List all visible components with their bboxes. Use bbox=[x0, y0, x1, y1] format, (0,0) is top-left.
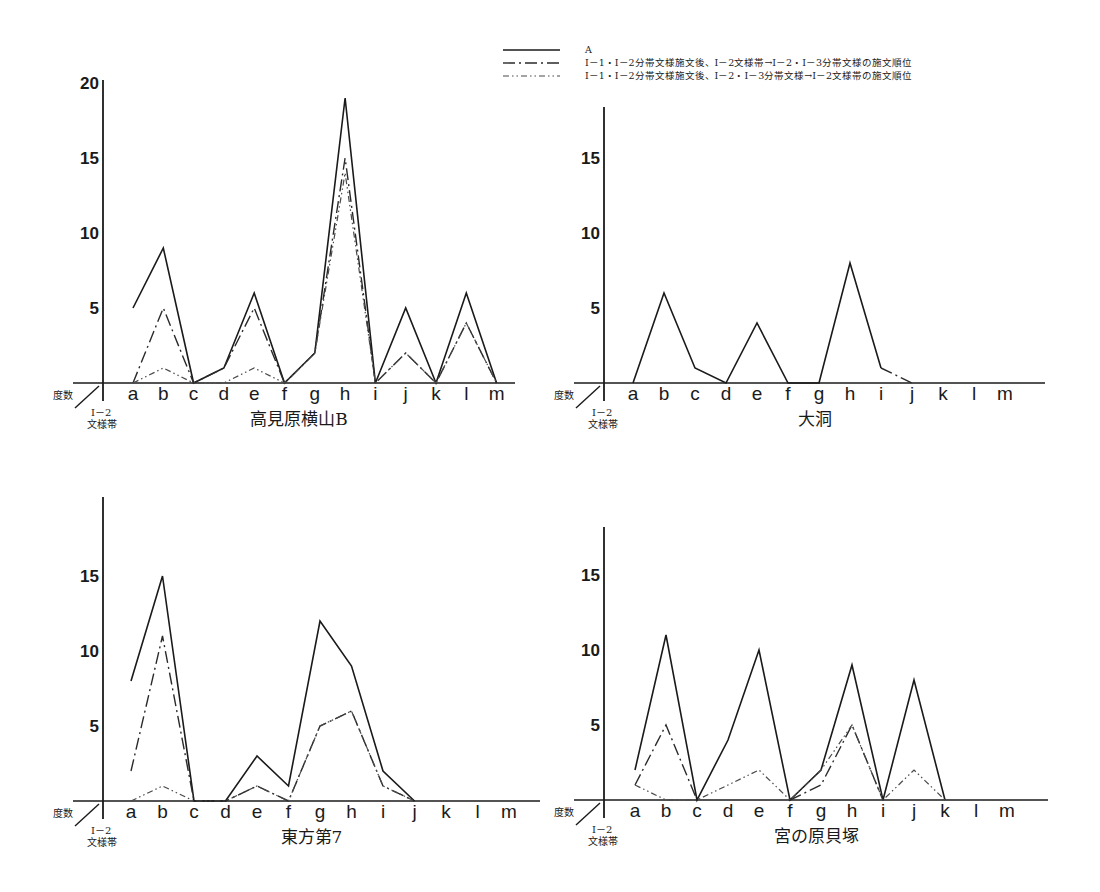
x-axis-label-line2: 文様帯 bbox=[588, 418, 618, 430]
x-category-label: h bbox=[845, 383, 856, 404]
y-axis-label: 度数 bbox=[554, 806, 574, 818]
figure: A Ⅰ－1・Ⅰ－2分帯文様施文後、Ⅰ－2文様帯→Ⅰ－2・Ⅰ－3分帯文様の施文順位… bbox=[0, 0, 1100, 892]
y-tick-label: 5 bbox=[90, 717, 99, 736]
x-axis-label-line2: 文様帯 bbox=[87, 836, 117, 848]
x-axis-label-line1: Ⅰ－2 bbox=[91, 825, 111, 836]
x-axis-label-line1: Ⅰ－2 bbox=[91, 407, 111, 418]
y-tick-label: 10 bbox=[80, 224, 99, 243]
series-line-dash-dot bbox=[635, 725, 697, 800]
x-category-label: m bbox=[999, 800, 1015, 821]
x-category-label: l bbox=[974, 800, 978, 821]
x-category-label: h bbox=[847, 800, 858, 821]
x-category-label: a bbox=[126, 801, 137, 822]
x-axis-label-line2: 文様帯 bbox=[588, 835, 618, 847]
x-axis-label-line2: 文様帯 bbox=[87, 418, 117, 430]
x-category-label: a bbox=[630, 800, 641, 821]
x-category-label: i bbox=[381, 801, 385, 822]
x-category-label: g bbox=[816, 800, 827, 821]
legend-label: Ⅰ－1・Ⅰ－2分帯文様施文後、Ⅰ－2文様帯→Ⅰ－2・Ⅰ－3分帯文様の施文順位 bbox=[585, 57, 912, 68]
corner-slash bbox=[75, 804, 99, 826]
x-category-label: g bbox=[310, 383, 321, 404]
x-category-label: g bbox=[814, 383, 825, 404]
x-category-label: i bbox=[373, 383, 377, 404]
x-category-label: i bbox=[879, 383, 883, 404]
x-category-label: e bbox=[252, 801, 263, 822]
y-tick-label: 10 bbox=[80, 642, 99, 661]
y-axis-label: 度数 bbox=[53, 807, 73, 819]
chart-title: 東方第7 bbox=[281, 827, 343, 847]
chart-higashikata-7: 51015abcdefghijklm度数Ⅰ－2文様帯東方第7 bbox=[53, 497, 540, 848]
x-category-label: j bbox=[909, 383, 914, 404]
x-category-label: g bbox=[315, 801, 326, 822]
x-category-label: k bbox=[431, 383, 441, 404]
chart-miyanohara-shell-mound: 51015abcdefghijklm度数Ⅰ－2文様帯宮の原貝塚 bbox=[554, 527, 1048, 847]
series-line-dash-dot bbox=[131, 636, 415, 801]
y-axis-label: 度数 bbox=[554, 389, 574, 401]
x-category-label: l bbox=[475, 801, 479, 822]
x-category-label: b bbox=[661, 800, 672, 821]
x-category-label: d bbox=[723, 800, 734, 821]
x-category-label: d bbox=[220, 801, 231, 822]
chart-title: 宮の原貝塚 bbox=[774, 826, 859, 846]
x-category-label: j bbox=[911, 800, 916, 821]
x-category-label: b bbox=[659, 383, 670, 404]
y-axis-label: 度数 bbox=[53, 389, 73, 401]
x-category-label: k bbox=[940, 800, 950, 821]
x-category-label: m bbox=[501, 801, 517, 822]
chart-title: 高見原横山B bbox=[250, 409, 348, 429]
x-category-label: l bbox=[464, 383, 468, 404]
x-category-label: b bbox=[157, 801, 168, 822]
x-category-label: k bbox=[938, 383, 948, 404]
series-line-solid bbox=[633, 263, 881, 383]
x-category-label: j bbox=[411, 801, 416, 822]
y-tick-label: 5 bbox=[591, 716, 600, 735]
legend-item-solid: A bbox=[503, 44, 592, 55]
chart-title: 大洞 bbox=[798, 409, 832, 429]
legend-item-dash-dot-dot: Ⅰ－1・Ⅰ－2分帯文様施文後、Ⅰ－2・Ⅰ－3分帯文様→Ⅰ－2文様帯の施文順位 bbox=[503, 70, 912, 81]
series-line-dash-dot-dot bbox=[131, 711, 415, 801]
x-category-label: j bbox=[403, 383, 408, 404]
y-tick-label: 15 bbox=[581, 566, 600, 585]
legend-label: A bbox=[584, 44, 592, 55]
x-category-label: a bbox=[628, 383, 639, 404]
y-tick-label: 5 bbox=[591, 299, 600, 318]
corner-slash bbox=[576, 386, 600, 408]
x-category-label: e bbox=[249, 383, 260, 404]
x-category-label: f bbox=[282, 383, 288, 404]
legend-item-dash-dot: Ⅰ－1・Ⅰ－2分帯文様施文後、Ⅰ－2文様帯→Ⅰ－2・Ⅰ－3分帯文様の施文順位 bbox=[503, 57, 912, 68]
series-line-dash-dot bbox=[133, 158, 497, 383]
x-category-label: f bbox=[785, 383, 791, 404]
x-category-label: d bbox=[721, 383, 732, 404]
x-axis-label-line1: Ⅰ－2 bbox=[592, 824, 612, 835]
x-category-label: b bbox=[158, 383, 169, 404]
y-tick-label: 5 bbox=[90, 299, 99, 318]
y-tick-label: 15 bbox=[80, 149, 99, 168]
x-category-label: h bbox=[340, 383, 351, 404]
corner-slash bbox=[576, 803, 600, 825]
x-category-label: l bbox=[972, 383, 976, 404]
x-category-label: d bbox=[219, 383, 230, 404]
x-category-label: h bbox=[346, 801, 357, 822]
series-line-dash-dot-dot bbox=[635, 725, 945, 800]
x-category-label: f bbox=[286, 801, 292, 822]
x-category-label: c bbox=[692, 800, 702, 821]
series-line-solid bbox=[131, 576, 415, 801]
x-category-label: c bbox=[690, 383, 700, 404]
x-category-label: i bbox=[881, 800, 885, 821]
x-category-label: f bbox=[787, 800, 793, 821]
series-line-solid bbox=[133, 98, 497, 383]
series-line-dash-dot bbox=[881, 368, 912, 383]
chart-takamihara-yokoyama-b: 5101520abcdefghijklm度数Ⅰ－2文様帯高見原横山B bbox=[53, 74, 515, 430]
x-category-label: e bbox=[752, 383, 763, 404]
y-tick-label: 10 bbox=[581, 224, 600, 243]
x-category-label: a bbox=[128, 383, 139, 404]
x-axis-label-line1: Ⅰ－2 bbox=[592, 407, 612, 418]
y-tick-label: 15 bbox=[80, 567, 99, 586]
series-line-solid bbox=[635, 635, 945, 800]
legend: A Ⅰ－1・Ⅰ－2分帯文様施文後、Ⅰ－2文様帯→Ⅰ－2・Ⅰ－3分帯文様の施文順位… bbox=[503, 44, 912, 81]
corner-slash bbox=[75, 386, 99, 408]
legend-label: Ⅰ－1・Ⅰ－2分帯文様施文後、Ⅰ－2・Ⅰ－3分帯文様→Ⅰ－2文様帯の施文順位 bbox=[585, 70, 912, 81]
x-category-label: m bbox=[997, 383, 1013, 404]
y-tick-label: 20 bbox=[80, 74, 99, 93]
y-tick-label: 15 bbox=[581, 149, 600, 168]
